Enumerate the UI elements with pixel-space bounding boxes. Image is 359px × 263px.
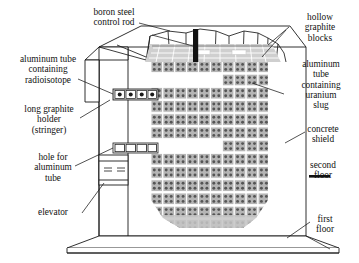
aluminum-tube-radioisotope [113, 89, 158, 100]
label-elevator: elevator [22, 207, 84, 217]
label-hollow-graphite-blocks: hollow graphite blocks [285, 12, 355, 43]
label-aluminum-tube-uranium-slug: aluminum tube containing uranium slug [286, 59, 356, 110]
label-concrete-shield: concrete shield [290, 124, 356, 145]
hollow-graphite-top-layer [145, 44, 282, 62]
label-aluminum-tube-radioisotope: aluminum tube containing radioisotope [2, 54, 94, 85]
first-floor-slab [67, 236, 339, 253]
elevator-car [99, 155, 128, 185]
label-second-floor: second floor [292, 160, 354, 181]
label-first-floor: first floor [298, 214, 352, 235]
hole-for-aluminum-tube [113, 143, 158, 153]
label-boron-steel-control-rod: boron steel control rod [60, 7, 168, 28]
label-long-graphite-holder-stringer: long graphite holder (stringer) [5, 104, 93, 135]
boron-steel-control-rod [193, 29, 198, 62]
uranium-graphite-pile [148, 60, 272, 232]
diagram-canvas: boron steel control rod hollow graphite … [0, 0, 359, 263]
label-hole-for-aluminum-tube: hole for aluminum tube [13, 152, 93, 183]
